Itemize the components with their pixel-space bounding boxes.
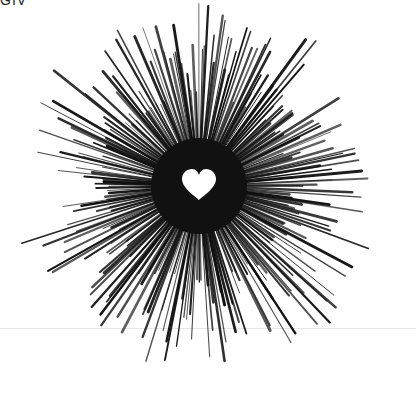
- starburst-graphic: [0, 0, 416, 394]
